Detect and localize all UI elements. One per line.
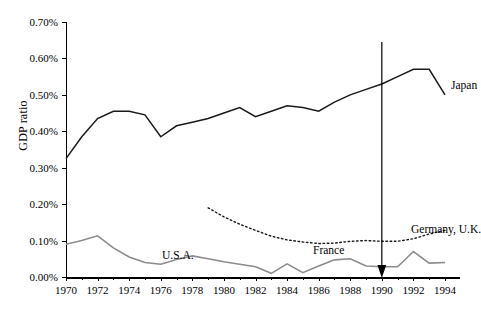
- x-tick-label: 1994: [425, 285, 465, 296]
- plot-area: Japan U.S.A. France Germany, U.K.: [66, 18, 460, 281]
- y-axis-tick: [62, 131, 67, 132]
- series-line-japan: [66, 69, 445, 158]
- x-axis-tick-major: [224, 277, 225, 281]
- x-axis-tick-labels: 1970197219741976197819801982198419861988…: [66, 285, 466, 305]
- y-axis-tick: [62, 95, 67, 96]
- x-axis-tick-major: [319, 277, 320, 281]
- x-axis-tick-major: [192, 277, 193, 281]
- series-layer: [66, 18, 460, 281]
- x-axis-tick-minor: [208, 277, 209, 280]
- x-axis-tick-minor: [177, 277, 178, 280]
- y-tick-label: 0.20%: [12, 199, 58, 210]
- y-tick-label: 0.00%: [12, 272, 58, 283]
- y-axis-tick: [62, 241, 67, 242]
- y-axis-tick: [62, 204, 67, 205]
- x-axis-tick-major: [350, 277, 351, 281]
- series-label-france: France: [313, 245, 344, 257]
- y-tick-label: 0.50%: [12, 90, 58, 101]
- x-axis-tick-major: [129, 277, 130, 281]
- y-tick-label: 0.70%: [12, 17, 58, 28]
- y-axis-tick: [62, 22, 67, 23]
- y-tick-label: 0.10%: [12, 236, 58, 247]
- x-axis-tick-minor: [145, 277, 146, 280]
- x-axis-tick-minor: [429, 277, 430, 280]
- x-axis-tick-minor: [82, 277, 83, 280]
- series-label-japan: Japan: [451, 80, 477, 92]
- x-axis-tick-major: [382, 277, 383, 281]
- x-axis-tick-major: [66, 277, 67, 281]
- y-tick-label: 0.60%: [12, 53, 58, 64]
- y-axis-tick-labels: 0.70%0.60%0.50%0.40%0.30%0.20%0.10%0.00%: [12, 0, 58, 316]
- x-axis-tick-major: [445, 277, 446, 281]
- x-axis-tick-minor: [240, 277, 241, 280]
- x-axis-tick-major: [98, 277, 99, 281]
- x-axis-tick-major: [256, 277, 257, 281]
- y-axis-tick: [62, 58, 67, 59]
- y-axis-tick: [62, 168, 67, 169]
- x-axis-tick-minor: [366, 277, 367, 280]
- x-axis-tick-minor: [303, 277, 304, 280]
- series-label-germany-uk: Germany, U.K.: [411, 224, 481, 236]
- germany-uk-arrow: [377, 42, 386, 278]
- y-tick-label: 0.40%: [12, 126, 58, 137]
- x-axis-tick-minor: [334, 277, 335, 280]
- x-axis-tick-major: [161, 277, 162, 281]
- y-tick-label: 0.30%: [12, 163, 58, 174]
- x-axis-tick-minor: [113, 277, 114, 280]
- x-axis-tick-major: [287, 277, 288, 281]
- x-axis-tick-minor: [398, 277, 399, 280]
- x-axis-tick-major: [413, 277, 414, 281]
- series-line-france: [208, 208, 445, 244]
- x-axis-tick-minor: [271, 277, 272, 280]
- series-label-usa: U.S.A.: [162, 250, 194, 262]
